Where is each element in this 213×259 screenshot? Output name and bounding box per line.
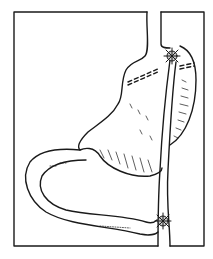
suture-line-upper-2 (128, 71, 160, 85)
suture-line-upper (128, 68, 160, 82)
anastomosis-lower (155, 213, 171, 229)
loop-inner (40, 160, 157, 223)
anastomosis-upper (164, 48, 180, 64)
left-frame (14, 12, 158, 246)
suture-line-right-2 (180, 66, 194, 69)
stomach-outline (78, 12, 162, 176)
illustration (0, 0, 213, 259)
channel-right (167, 62, 176, 246)
loop-outer (26, 149, 158, 235)
suture-line-right (180, 63, 194, 66)
esophagus-left-wall (161, 12, 170, 48)
